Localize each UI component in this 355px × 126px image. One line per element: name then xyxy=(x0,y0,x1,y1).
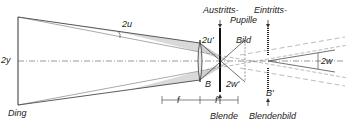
image-angle-label: 2u' xyxy=(202,36,214,45)
field-angle-image-label: 2w' xyxy=(226,80,239,89)
ray-diagram-svg xyxy=(0,0,355,126)
stop-image-point-label: B' xyxy=(266,89,274,98)
lens xyxy=(198,40,202,82)
optical-diagram: 2y Ding 2u 2u' Bild Austritts- Pupille E… xyxy=(0,0,355,126)
stop-label: Blende xyxy=(210,112,238,121)
exit-pupil-label-2: Pupille xyxy=(230,16,257,25)
upper-converging-bundle xyxy=(200,43,230,62)
focal-length-label: f xyxy=(177,96,180,105)
entrance-pupil-label: Eintritts- xyxy=(254,6,287,15)
image-label: Bild xyxy=(236,36,251,45)
stop-point-label: B xyxy=(205,80,211,89)
focal-length-image-label: f' xyxy=(215,96,219,105)
object-size-label: 2y xyxy=(1,56,11,65)
field-angle-label: 2w xyxy=(321,57,333,66)
object-label: Ding xyxy=(8,109,27,118)
object-angle-label: 2u xyxy=(122,20,132,29)
stop-image-label: Blendenbild xyxy=(249,112,296,121)
exit-pupil-label: Austritts- xyxy=(203,6,239,15)
